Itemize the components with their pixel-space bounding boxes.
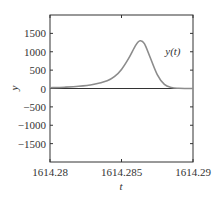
y-axis-label: y xyxy=(8,85,20,91)
y-tick-label: 1500 xyxy=(24,27,47,39)
y-tick-label: −1000 xyxy=(18,119,47,131)
x-tick-label: 1614.28 xyxy=(32,166,68,178)
line-chart: −1500−1000−500050010001500 1614.281614.2… xyxy=(0,0,218,197)
curve-annotation: y(t) xyxy=(164,45,181,58)
x-tick-label: 1614.29 xyxy=(175,166,211,178)
x-axis-ticks: 1614.281614.2851614.29 xyxy=(32,15,211,178)
y-tick-label: −1500 xyxy=(18,138,47,150)
y-tick-label: 500 xyxy=(30,64,47,76)
y-tick-label: −500 xyxy=(23,101,46,113)
y-tick-label: 0 xyxy=(41,83,47,95)
x-tick-label: 1614.285 xyxy=(101,166,143,178)
x-axis-label: t xyxy=(119,180,123,192)
y-tick-label: 1000 xyxy=(24,46,47,58)
